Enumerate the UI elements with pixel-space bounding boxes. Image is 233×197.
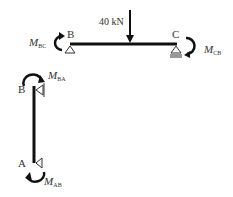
moment-symbol: M [29,36,38,48]
frame-free-body-diagram: 40 kN B C MBC MCB B A MBA MAB [0,0,233,197]
moment-subscript: AB [53,182,62,188]
moment-subscript: CB [213,50,221,56]
moment-subscript: BC [38,43,46,49]
moment-label-ab: MAB [44,176,62,188]
pin-support-b-column-icon [36,83,44,97]
point-label-a-column: A [18,158,26,169]
moment-symbol: M [204,43,213,55]
moment-ba-arrow-icon [23,74,45,86]
moment-symbol: M [44,175,53,187]
moment-label-ba: MBA [48,70,66,82]
pin-support-b-icon [65,46,75,53]
diagram-canvas [0,0,233,197]
pin-support-a-column-icon [36,158,42,168]
roller-support-c-icon [170,46,182,57]
moment-ab-arrow-icon [25,172,44,182]
moment-label-bc: MBC [29,37,47,49]
moment-cb-arrow-icon [184,38,195,58]
moment-label-cb: MCB [204,44,222,56]
point-label-b-beam: B [67,29,74,40]
load-label: 40 kN [99,17,124,27]
moment-bc-arrow-icon [55,32,65,50]
moment-subscript: BA [57,76,66,82]
load-arrow-icon [126,10,134,43]
point-label-b-column: B [18,84,25,95]
point-label-c-beam: C [172,29,179,40]
moment-symbol: M [48,69,57,81]
